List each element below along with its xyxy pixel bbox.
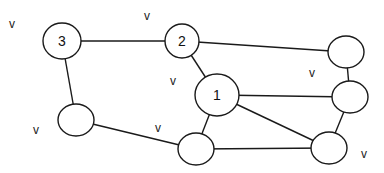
graph-diagram: 321 vvvvvvv	[0, 0, 384, 173]
edge-nBC-nBR	[196, 148, 329, 149]
node-nBC	[178, 133, 214, 165]
nodes-layer: 321	[43, 23, 368, 165]
check-mark: v	[33, 123, 39, 137]
node-circle	[58, 104, 94, 136]
node-label: 2	[178, 33, 186, 49]
node-label: 3	[58, 33, 66, 49]
node-circle	[178, 133, 214, 165]
node-nRM	[332, 81, 368, 113]
node-nBR	[311, 132, 347, 164]
node-nLB	[58, 104, 94, 136]
node-n2: 2	[165, 24, 199, 58]
check-mark: v	[155, 121, 161, 135]
node-n3: 3	[43, 23, 81, 59]
check-mark: v	[361, 147, 367, 161]
node-n1: 1	[195, 74, 239, 116]
node-circle	[328, 36, 364, 68]
node-label: 1	[213, 87, 221, 103]
node-circle	[332, 81, 368, 113]
check-mark: v	[309, 66, 315, 80]
check-mark: v	[9, 17, 15, 31]
edge-n2-nTR	[182, 41, 346, 52]
check-mark: v	[144, 9, 150, 23]
check-mark: v	[170, 74, 176, 88]
node-nTR	[328, 36, 364, 68]
node-circle	[311, 132, 347, 164]
